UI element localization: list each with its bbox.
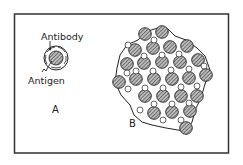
antibody-label: Antibody (41, 31, 84, 42)
panel-b-label: B (129, 118, 136, 129)
panel-b-lattice (113, 26, 213, 135)
panel-a-label: A (52, 104, 59, 115)
diagram: Antibody Antigen A (0, 0, 243, 165)
panel-a-complex (42, 41, 68, 72)
antigen-label: Antigen (28, 75, 65, 86)
